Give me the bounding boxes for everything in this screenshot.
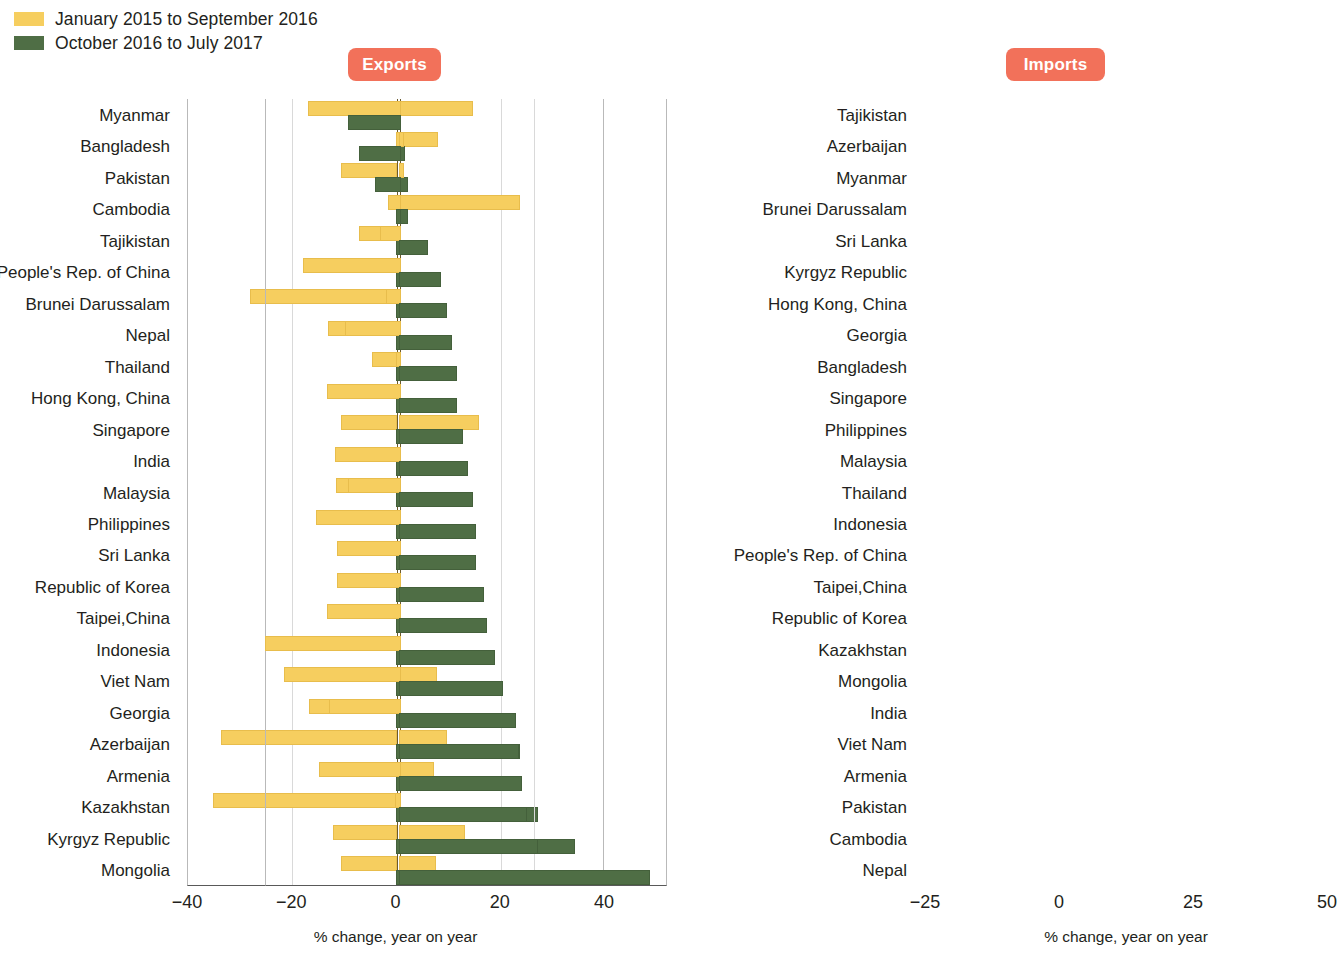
category-label: Azerbaijan (827, 138, 907, 155)
axis-tick-label: −20 (276, 892, 307, 913)
bar-prev (335, 447, 401, 462)
bar-row (265, 319, 667, 350)
category-label: Republic of Korea (772, 610, 907, 627)
bar-prev (284, 667, 401, 682)
bar-row (265, 382, 667, 413)
category-label: Bangladesh (80, 138, 170, 155)
bar-row (265, 288, 667, 319)
bar-prev (399, 163, 404, 178)
category-label: Tajikistan (837, 107, 907, 124)
bar-curr (399, 839, 538, 854)
category-label: Sri Lanka (835, 233, 907, 250)
category-label: Tajikistan (100, 233, 170, 250)
bar-curr (399, 303, 447, 318)
axis-tick-label: 25 (1183, 892, 1203, 913)
bar-prev (308, 101, 401, 116)
bar-curr (399, 524, 476, 539)
axis-tick-label: 50 (1317, 892, 1337, 913)
bar-curr (399, 870, 650, 885)
bar-row (265, 130, 667, 161)
category-label: Bangladesh (817, 359, 907, 376)
category-label: Brunei Darussalam (762, 201, 907, 218)
bar-prev (319, 762, 401, 777)
bar-prev (345, 321, 401, 336)
bar-curr (399, 713, 516, 728)
category-label: Myanmar (836, 170, 907, 187)
bar-row (265, 162, 667, 193)
category-label: Viet Nam (837, 736, 907, 753)
bar-row (265, 823, 667, 854)
axis-tick-label: 40 (594, 892, 614, 913)
bar-row (265, 634, 667, 665)
bar-curr (399, 650, 495, 665)
bar-curr (399, 240, 428, 255)
bar-row (265, 99, 667, 130)
category-label: Brunei Darussalam (25, 296, 170, 313)
category-label: People's Rep. of China (734, 547, 907, 564)
category-label: Taipei,China (813, 579, 907, 596)
category-label: Sri Lanka (98, 547, 170, 564)
category-label: Kazakhstan (818, 642, 907, 659)
category-label: Georgia (110, 705, 170, 722)
category-label: India (133, 453, 170, 470)
category-label: Republic of Korea (35, 579, 170, 596)
category-label: Philippines (88, 516, 170, 533)
bar-row (265, 603, 667, 634)
bar-prev (396, 352, 401, 367)
bar-row (265, 760, 667, 791)
bar-prev (327, 384, 401, 399)
bar-prev (327, 604, 401, 619)
bar-curr (399, 681, 503, 696)
bar-curr (399, 398, 457, 413)
bar-prev (395, 793, 401, 808)
bar-row (265, 445, 667, 476)
bar-prev (386, 289, 401, 304)
category-label: Taipei,China (76, 610, 170, 627)
bar-prev (399, 825, 465, 840)
bar-row (265, 256, 667, 287)
bar-curr (359, 146, 401, 161)
bar-curr (399, 555, 476, 570)
category-label: Singapore (92, 422, 170, 439)
bar-prev (265, 636, 401, 651)
bar-curr (399, 272, 441, 287)
category-label: Indonesia (96, 642, 170, 659)
bar-prev (348, 478, 401, 493)
bar-prev (303, 258, 401, 273)
category-label: Georgia (847, 327, 907, 344)
bar-prev (399, 132, 404, 147)
bar-row (265, 855, 667, 886)
imports-badge: Imports (1006, 48, 1105, 81)
category-label: Malaysia (103, 485, 170, 502)
category-label: Azerbaijan (90, 736, 170, 753)
imports-bar-rows (265, 99, 667, 886)
category-label: Hong Kong, China (768, 296, 907, 313)
bar-row (265, 351, 667, 382)
category-label: Malaysia (840, 453, 907, 470)
category-label: People's Rep. of China (0, 264, 170, 281)
bar-curr (399, 587, 484, 602)
bar-row (265, 666, 667, 697)
bar-prev (316, 510, 401, 525)
axis-tick-label: 0 (1054, 892, 1064, 913)
bar-row (265, 792, 667, 823)
bar-curr (348, 115, 401, 130)
bar-prev (337, 573, 401, 588)
bar-prev (399, 730, 447, 745)
bar-curr (399, 429, 463, 444)
bar-row (265, 729, 667, 760)
category-label: Cambodia (830, 831, 908, 848)
category-label: Pakistan (105, 170, 170, 187)
exports-badge: Exports (348, 48, 441, 81)
bar-row (265, 225, 667, 256)
axis-tick-label: 0 (390, 892, 400, 913)
category-label: Indonesia (833, 516, 907, 533)
bar-prev (399, 856, 436, 871)
category-label: Nepal (863, 862, 907, 879)
bar-row (265, 571, 667, 602)
bar-row (265, 193, 667, 224)
bar-curr (399, 744, 519, 759)
bar-curr (396, 209, 401, 224)
bar-prev (388, 195, 401, 210)
axis-tick-label: −40 (172, 892, 203, 913)
